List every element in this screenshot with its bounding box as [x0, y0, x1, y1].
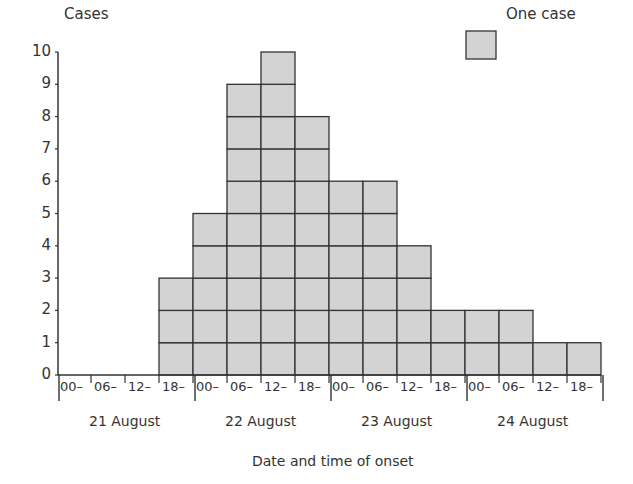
case-box	[261, 278, 295, 310]
case-box	[329, 214, 363, 246]
x-tick-label: 12–	[400, 379, 423, 394]
x-tick-label: 00–	[332, 379, 355, 394]
case-box	[329, 181, 363, 213]
y-tick-label: 0	[41, 365, 51, 383]
y-tick-label: 8	[41, 107, 51, 125]
day-label: 21 August	[89, 413, 160, 429]
case-box	[227, 278, 261, 310]
case-box	[193, 343, 227, 375]
case-box	[533, 343, 567, 375]
case-box	[465, 310, 499, 342]
x-tick-label: 00–	[60, 379, 83, 394]
case-box	[159, 310, 193, 342]
case-box	[499, 343, 533, 375]
x-tick-label: 00–	[468, 379, 491, 394]
case-box	[363, 310, 397, 342]
x-tick-label: 18–	[570, 379, 593, 394]
case-box	[159, 343, 193, 375]
case-box	[295, 214, 329, 246]
case-box	[363, 181, 397, 213]
x-tick-label: 00–	[196, 379, 219, 394]
case-box	[227, 181, 261, 213]
case-box	[295, 343, 329, 375]
case-box	[261, 52, 295, 84]
x-tick-label: 18–	[162, 379, 185, 394]
x-tick-label: 18–	[298, 379, 321, 394]
case-box	[261, 214, 295, 246]
case-box	[295, 117, 329, 149]
legend-label: One case	[506, 5, 576, 23]
case-box	[431, 310, 465, 342]
case-box	[227, 117, 261, 149]
case-box	[261, 149, 295, 181]
x-tick-label: 12–	[264, 379, 287, 394]
case-box	[227, 246, 261, 278]
case-box	[397, 246, 431, 278]
case-box	[295, 181, 329, 213]
y-tick-label: 4	[41, 236, 51, 254]
y-tick-label: 10	[32, 42, 51, 60]
case-box	[261, 343, 295, 375]
y-tick-label: 9	[41, 74, 51, 92]
case-box	[431, 343, 465, 375]
case-box	[499, 310, 533, 342]
case-boxes	[159, 52, 601, 375]
case-box	[397, 343, 431, 375]
x-tick-label: 06–	[502, 379, 525, 394]
case-box	[329, 278, 363, 310]
epidemic-curve-chart	[0, 0, 633, 484]
case-box	[397, 278, 431, 310]
x-tick-label: 12–	[536, 379, 559, 394]
case-box	[227, 149, 261, 181]
case-box	[193, 310, 227, 342]
y-tick-label: 3	[41, 268, 51, 286]
x-axis-label: Date and time of onset	[252, 453, 414, 469]
case-box	[193, 246, 227, 278]
day-label: 23 August	[361, 413, 432, 429]
x-tick-label: 18–	[434, 379, 457, 394]
case-box	[159, 278, 193, 310]
x-tick-label: 06–	[230, 379, 253, 394]
case-box	[261, 181, 295, 213]
case-box	[227, 310, 261, 342]
case-box	[295, 310, 329, 342]
x-tick-label: 06–	[366, 379, 389, 394]
case-box	[329, 246, 363, 278]
case-box	[261, 84, 295, 116]
x-tick-label: 06–	[94, 379, 117, 394]
day-label: 22 August	[225, 413, 296, 429]
case-box	[193, 278, 227, 310]
case-box	[465, 343, 499, 375]
case-box	[227, 84, 261, 116]
case-box	[261, 310, 295, 342]
case-box	[363, 246, 397, 278]
y-tick-label: 6	[41, 171, 51, 189]
case-box	[295, 149, 329, 181]
case-box	[193, 214, 227, 246]
y-tick-label: 7	[41, 139, 51, 157]
case-box	[295, 278, 329, 310]
day-label: 24 August	[497, 413, 568, 429]
case-box	[567, 343, 601, 375]
case-box	[261, 117, 295, 149]
legend-swatch	[466, 31, 496, 59]
y-tick-label: 1	[41, 333, 51, 351]
case-box	[227, 343, 261, 375]
case-box	[329, 343, 363, 375]
y-tick-label: 5	[41, 204, 51, 222]
case-box	[397, 310, 431, 342]
case-box	[363, 278, 397, 310]
y-axis-label: Cases	[64, 5, 109, 23]
x-tick-label: 12–	[128, 379, 151, 394]
case-box	[261, 246, 295, 278]
case-box	[227, 214, 261, 246]
case-box	[329, 310, 363, 342]
case-box	[295, 246, 329, 278]
y-tick-label: 2	[41, 300, 51, 318]
case-box	[363, 214, 397, 246]
case-box	[363, 343, 397, 375]
